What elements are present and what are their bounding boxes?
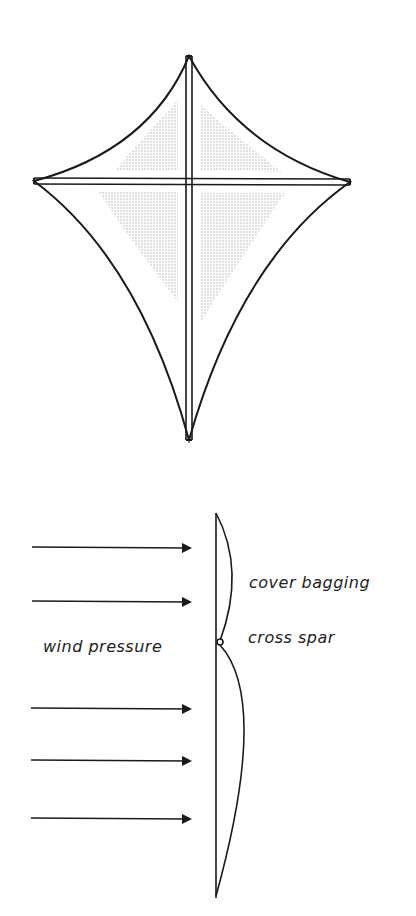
wind-arrows bbox=[31, 547, 190, 819]
spine bbox=[186, 56, 192, 440]
shading-lower-left bbox=[98, 191, 178, 302]
label-wind-pressure: wind pressure bbox=[43, 637, 162, 656]
label-cover-bagging: cover bagging bbox=[249, 573, 370, 592]
kite-front-view bbox=[34, 56, 350, 440]
wind-arrow-1 bbox=[32, 547, 190, 548]
lower-cover-curve bbox=[216, 645, 244, 896]
cross-spar-point bbox=[217, 639, 223, 645]
wind-arrow-4 bbox=[31, 760, 190, 761]
label-cross-spar: cross spar bbox=[248, 628, 335, 647]
kite-side-view bbox=[31, 513, 244, 898]
wind-arrow-5 bbox=[31, 818, 190, 819]
wind-arrow-3 bbox=[31, 708, 190, 709]
shading-upper-right bbox=[200, 104, 282, 172]
upper-cover-curve bbox=[216, 513, 232, 641]
shading-upper-left bbox=[115, 100, 178, 170]
wind-arrow-2 bbox=[32, 601, 190, 602]
diagram-canvas bbox=[0, 0, 416, 916]
